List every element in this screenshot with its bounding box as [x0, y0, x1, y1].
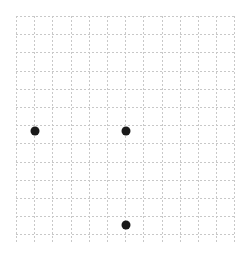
grid-point	[122, 221, 131, 230]
grid-point	[31, 127, 40, 136]
dot-grid	[0, 0, 250, 262]
grid-point	[122, 127, 131, 136]
